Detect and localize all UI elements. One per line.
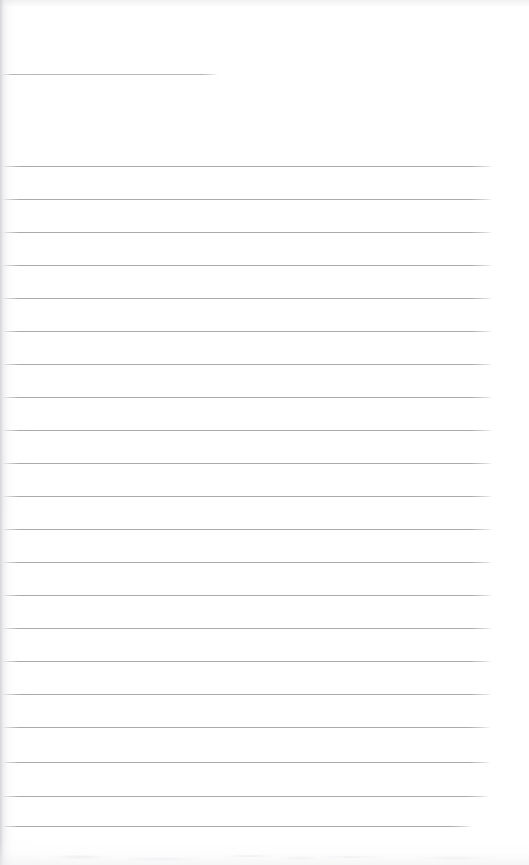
- ruled-line-stroke: [2, 232, 493, 233]
- ruled-line-stroke: [2, 298, 493, 299]
- ruled-line: [2, 628, 493, 629]
- ruled-line: [2, 562, 493, 563]
- ruled-line-stroke: [2, 826, 472, 827]
- ruled-line-stroke: [2, 529, 493, 530]
- ruled-line-stroke: [2, 265, 493, 266]
- ruled-line: [2, 397, 493, 398]
- scan-edge-shadow-top: [0, 0, 529, 7]
- ruled-line: [2, 265, 493, 266]
- ruled-line: [2, 595, 493, 596]
- ruled-line: [2, 694, 492, 695]
- ruled-line: [2, 430, 493, 431]
- ruled-line: [2, 529, 493, 530]
- ruled-line-stroke: [2, 595, 493, 596]
- header-rule-stroke: [2, 74, 218, 75]
- ruled-line-stroke: [2, 628, 493, 629]
- ruled-line-stroke: [2, 430, 493, 431]
- ruled-line: [2, 826, 472, 827]
- ruled-line: [2, 496, 493, 497]
- scanned-page: [0, 0, 529, 865]
- ruled-line-stroke: [2, 796, 489, 797]
- ruled-line: [2, 661, 492, 662]
- ruled-line: [2, 796, 489, 797]
- ruled-line: [2, 364, 493, 365]
- ruled-line-stroke: [2, 397, 493, 398]
- paper-tone-overlay: [0, 0, 529, 865]
- ruled-line: [2, 727, 491, 728]
- ruled-line: [2, 331, 493, 332]
- ruled-line-stroke: [2, 727, 491, 728]
- ruled-line-stroke: [2, 199, 493, 200]
- ruled-line-stroke: [2, 331, 493, 332]
- scan-edge-shadow-bottom: [0, 839, 529, 865]
- ruled-line-stroke: [2, 661, 492, 662]
- ruled-line-stroke: [2, 762, 491, 763]
- ruled-line: [2, 199, 493, 200]
- ruled-line: [2, 232, 493, 233]
- scan-speckle-artifacts: [0, 843, 529, 865]
- ruled-line-stroke: [2, 496, 493, 497]
- scan-edge-shadow-left: [0, 0, 9, 865]
- ruled-line-stroke: [2, 694, 492, 695]
- header-rule: [2, 74, 218, 75]
- ruled-line-stroke: [2, 463, 493, 464]
- ruled-line: [2, 463, 493, 464]
- ruled-line-stroke: [2, 166, 493, 167]
- ruled-line-stroke: [2, 364, 493, 365]
- ruled-line: [2, 298, 493, 299]
- ruled-line: [2, 166, 493, 167]
- ruled-line-stroke: [2, 562, 493, 563]
- ruled-line: [2, 762, 491, 763]
